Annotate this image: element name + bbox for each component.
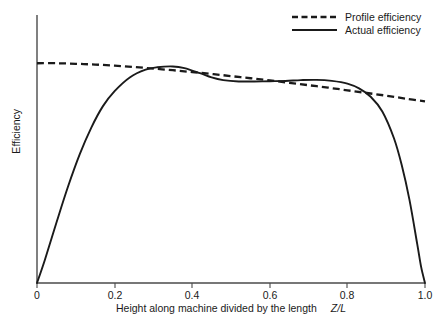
legend-swatches bbox=[292, 17, 337, 30]
chart-figure: Profile efficiency Actual efficiency 0 0… bbox=[0, 0, 444, 321]
y-axis-title: Efficiency bbox=[11, 91, 22, 171]
legend-label-actual-efficiency: Actual efficiency bbox=[345, 25, 421, 36]
x-tick-marks bbox=[37, 283, 425, 288]
axes-group bbox=[37, 15, 425, 283]
x-tick-label-0p4: 0.4 bbox=[185, 290, 200, 301]
x-tick-label-0p8: 0.8 bbox=[340, 290, 355, 301]
x-tick-label-0p2: 0.2 bbox=[108, 290, 123, 301]
x-axis-title: Height along machine divided by the leng… bbox=[37, 303, 425, 314]
x-axis-title-text: Height along machine divided by the leng… bbox=[116, 302, 317, 314]
legend-label-profile-efficiency: Profile efficiency bbox=[345, 12, 421, 23]
x-axis-title-symbol: Z/L bbox=[317, 302, 346, 314]
x-tick-label-0: 0 bbox=[34, 290, 40, 301]
x-tick-label-1p0: 1.0 bbox=[418, 290, 433, 301]
x-tick-label-0p6: 0.6 bbox=[263, 290, 278, 301]
series-line-actual-efficiency bbox=[37, 66, 425, 283]
plot-canvas bbox=[0, 0, 444, 321]
series-line-profile-efficiency bbox=[37, 63, 425, 101]
